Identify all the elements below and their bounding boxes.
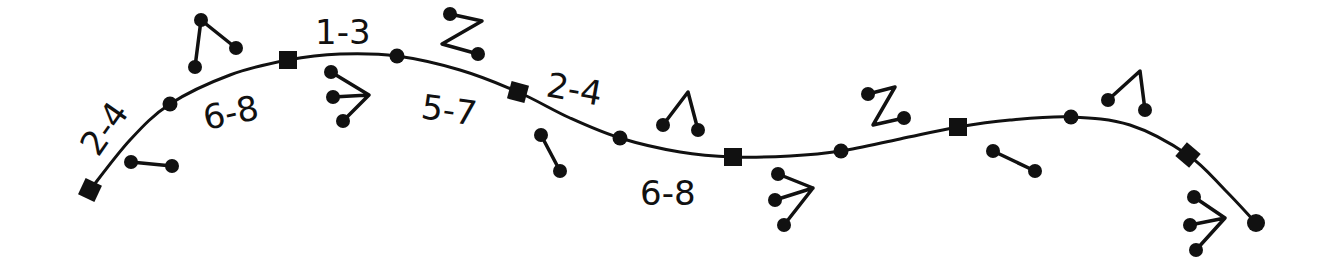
range-label: 6-8: [640, 173, 696, 213]
ball-end: [771, 167, 785, 181]
ball-end: [777, 218, 791, 232]
ball-end: [897, 111, 911, 125]
ball-end: [229, 41, 243, 55]
ball-end: [336, 114, 350, 128]
ball-end: [471, 47, 485, 61]
ball-end: [691, 123, 705, 137]
ball-end: [986, 144, 1000, 158]
ball-end: [1187, 190, 1201, 204]
ball-end: [165, 159, 179, 173]
ball-end: [1138, 103, 1152, 117]
ball-end: [656, 118, 670, 132]
range-label: 1-3: [315, 12, 371, 52]
square-node-icon: [724, 148, 742, 166]
ball-end: [194, 13, 208, 27]
ball-end: [1028, 164, 1042, 178]
dot-node-icon: [1064, 110, 1079, 125]
ball-end: [534, 128, 548, 142]
square-node-icon: [949, 118, 967, 136]
square-node-icon: [279, 51, 297, 69]
ball-end: [324, 65, 338, 79]
dot-node-icon: [390, 49, 405, 64]
route-diagram: 2-46-81-35-72-46-8: [0, 0, 1332, 276]
ball-end: [1183, 218, 1197, 232]
ball-end: [1189, 243, 1203, 257]
ball-end: [443, 7, 457, 21]
ball-end: [188, 60, 202, 74]
ball-end: [553, 164, 567, 178]
ball-end: [124, 155, 138, 169]
ball-end: [768, 193, 782, 207]
ball-end: [861, 87, 875, 101]
ball-end: [326, 90, 340, 104]
dot-node-icon: [163, 97, 178, 112]
ball-end: [1101, 93, 1115, 107]
dot-node-icon: [613, 131, 628, 146]
end-dot-icon: [1247, 214, 1265, 232]
range-label: 5-7: [419, 86, 480, 133]
dot-node-icon: [834, 144, 849, 159]
